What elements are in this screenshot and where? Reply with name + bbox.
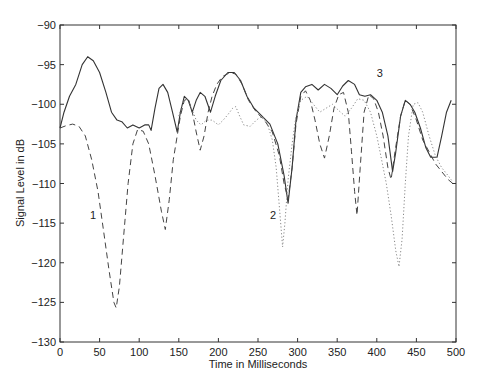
x-tick-label: 150 <box>170 346 188 358</box>
curve-1 <box>60 73 453 308</box>
x-tick-label: 450 <box>407 346 425 358</box>
curve-labels: 123 <box>90 67 383 222</box>
x-tick-label: 50 <box>93 346 105 358</box>
x-axis-label: Time in Milliseconds <box>209 358 308 370</box>
x-tick-label: 0 <box>57 346 63 358</box>
line-chart: 050100150200250300350400450500−90−95−100… <box>0 0 484 384</box>
y-axis-label: Signal Level in dB <box>14 139 26 227</box>
curve-3 <box>60 57 451 204</box>
x-tick-label: 250 <box>249 346 267 358</box>
y-tick-label: −130 <box>31 336 56 348</box>
x-tick-label: 300 <box>288 346 306 358</box>
x-tick-label: 500 <box>447 346 465 358</box>
plot-frame <box>60 25 456 342</box>
y-tick-label: −120 <box>31 257 56 269</box>
x-tick-label: 200 <box>209 346 227 358</box>
y-tick-label: −115 <box>32 217 56 229</box>
y-tick-label: −105 <box>31 138 56 150</box>
y-tick-label: −125 <box>31 296 56 308</box>
x-tick-label: 350 <box>328 346 346 358</box>
x-tick-label: 400 <box>368 346 386 358</box>
axis-ticks: 050100150200250300350400450500−90−95−100… <box>31 19 465 358</box>
y-tick-label: −110 <box>32 178 56 190</box>
y-tick-label: −90 <box>37 19 56 31</box>
curves <box>60 57 453 308</box>
y-tick-label: −100 <box>31 98 56 110</box>
curve-label-2: 2 <box>270 209 276 221</box>
curve-label-3: 3 <box>377 67 383 79</box>
y-tick-label: −95 <box>37 59 56 71</box>
curve-label-1: 1 <box>90 209 96 221</box>
x-tick-label: 100 <box>130 346 148 358</box>
